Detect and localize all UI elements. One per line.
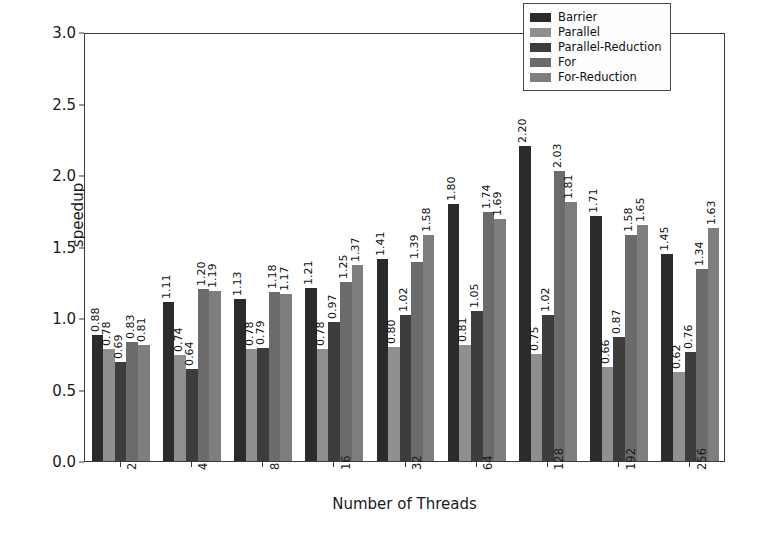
bar: [103, 349, 115, 461]
bar: [186, 369, 198, 461]
legend-item-barrier: Barrier: [530, 10, 662, 24]
y-tick-label: 0.0: [30, 453, 76, 471]
bar: [269, 292, 281, 461]
bar-value-label: 1.39: [408, 235, 421, 260]
y-tick-label: 1.0: [30, 310, 76, 328]
bar: [531, 354, 543, 461]
bar: [257, 348, 269, 461]
x-tick-mark: [547, 462, 548, 467]
bar-value-label: 0.81: [135, 318, 148, 343]
bar-value-label: 0.81: [456, 318, 469, 343]
bar: [305, 288, 317, 461]
legend-swatch-icon: [530, 13, 551, 22]
bar-value-label: 1.34: [693, 242, 706, 267]
bar-value-label: 0.87: [610, 309, 623, 334]
bar: [317, 349, 329, 461]
bars-container: 0.881.111.131.211.411.802.201.711.450.78…: [85, 34, 724, 461]
x-tick-label: 16: [339, 455, 353, 470]
x-tick-mark: [191, 462, 192, 467]
bar: [483, 212, 495, 461]
plot-area: 0.881.111.131.211.411.802.201.711.450.78…: [84, 33, 725, 462]
legend-swatch-icon: [530, 73, 551, 82]
bar-value-label: 1.19: [206, 263, 219, 288]
legend-swatch-icon: [530, 58, 551, 67]
bar-value-label: 1.69: [491, 192, 504, 217]
bar-value-label: 1.02: [539, 288, 552, 313]
bar: [542, 315, 554, 461]
bar: [471, 311, 483, 461]
x-tick-label: 8: [268, 463, 282, 470]
x-tick-label: 4: [196, 463, 210, 470]
bar: [138, 345, 150, 461]
bar: [246, 349, 258, 461]
bar: [423, 235, 435, 461]
bar: [352, 265, 364, 461]
x-tick-label: 192: [624, 448, 638, 470]
bar-value-label: 1.17: [278, 266, 291, 291]
bar-value-label: 0.80: [385, 319, 398, 344]
y-tick-label: 3.0: [30, 24, 76, 42]
x-tick-label: 32: [410, 455, 424, 470]
bar: [209, 291, 221, 461]
bar-value-label: 0.76: [682, 325, 695, 350]
x-tick-mark: [333, 462, 334, 467]
bar: [602, 367, 614, 461]
bar: [696, 269, 708, 461]
bar-value-label: 1.65: [634, 198, 647, 223]
bar: [198, 289, 210, 461]
bar: [637, 225, 649, 461]
bar-value-label: 2.20: [516, 119, 529, 144]
bar: [388, 347, 400, 461]
bar: [280, 294, 292, 461]
bar-value-label: 1.41: [374, 232, 387, 257]
bar-value-label: 0.97: [326, 295, 339, 320]
bar-value-label: 1.37: [349, 238, 362, 263]
bar-value-label: 1.58: [420, 208, 433, 233]
x-axis-label: Number of Threads: [84, 495, 725, 513]
x-tick-label: 128: [552, 448, 566, 470]
bar: [328, 322, 340, 461]
bar: [400, 315, 412, 461]
bar: [174, 355, 186, 461]
x-tick-label: 2: [125, 463, 139, 470]
y-tick-label: 2.0: [30, 167, 76, 185]
bar: [625, 235, 637, 461]
x-tick-mark: [618, 462, 619, 467]
legend-item-for-reduction: For-Reduction: [530, 70, 662, 84]
bar-value-label: 1.21: [302, 260, 315, 285]
bar-value-label: 0.66: [599, 339, 612, 364]
x-tick-mark: [262, 462, 263, 467]
legend-swatch-icon: [530, 28, 551, 37]
bar-value-label: 1.63: [705, 200, 718, 225]
bar: [565, 202, 577, 461]
bar: [708, 228, 720, 461]
bar: [613, 337, 625, 461]
legend-label: Parallel-Reduction: [558, 41, 662, 53]
bar: [685, 352, 697, 461]
bar-value-label: 0.64: [183, 342, 196, 367]
legend-label: Barrier: [558, 11, 597, 23]
legend-label: Parallel: [558, 26, 600, 38]
bar: [126, 342, 138, 461]
legend-swatch-icon: [530, 43, 551, 52]
legend-item-parallel: Parallel: [530, 25, 662, 39]
bar-value-label: 1.18: [266, 265, 279, 290]
bar: [163, 302, 175, 461]
bar-value-label: 1.11: [160, 275, 173, 300]
bar: [411, 262, 423, 461]
bar: [554, 171, 566, 461]
y-tick-label: 0.5: [30, 382, 76, 400]
y-tick-label: 1.5: [30, 239, 76, 257]
legend-item-for: For: [530, 55, 662, 69]
bar-value-label: 1.80: [445, 176, 458, 201]
bar-value-label: 0.69: [112, 335, 125, 360]
bar-value-label: 1.45: [658, 226, 671, 251]
x-tick-mark: [405, 462, 406, 467]
bar: [115, 362, 127, 461]
bar: [92, 335, 104, 461]
chart-legend: BarrierParallelParallel-ReductionForFor-…: [523, 3, 671, 91]
bar: [494, 219, 506, 461]
x-tick-mark: [689, 462, 690, 467]
bar: [673, 372, 685, 461]
bar: [459, 345, 471, 461]
